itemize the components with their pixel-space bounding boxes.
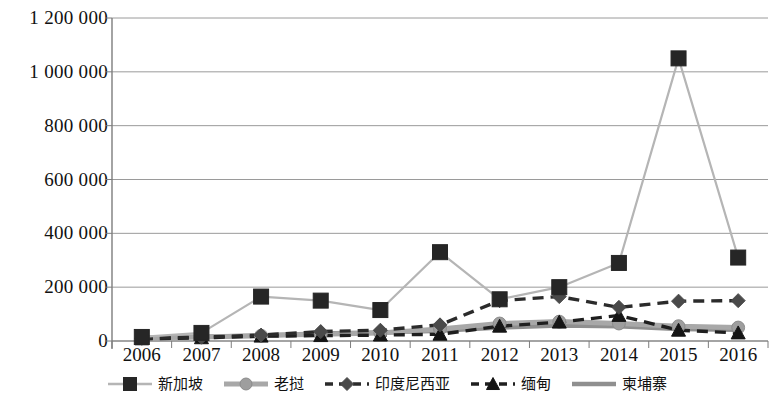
marker-square — [611, 255, 626, 270]
plot-area — [0, 0, 774, 398]
x-tick-label: 2012 — [468, 344, 532, 366]
marker-square — [671, 51, 686, 66]
x-tick-label: 2015 — [647, 344, 711, 366]
x-tick-label: 2011 — [408, 344, 472, 366]
legend-swatch-triangle-icon — [470, 376, 516, 392]
marker-square — [731, 250, 746, 265]
legend-item[interactable]: 柬埔寨 — [571, 376, 667, 392]
marker-square — [124, 378, 137, 391]
x-tick-label: 2014 — [587, 344, 651, 366]
marker-diamond — [612, 300, 626, 314]
marker-diamond — [672, 294, 686, 308]
legend-label: 新加坡 — [158, 376, 203, 392]
marker-square — [433, 245, 448, 260]
marker-diamond — [341, 378, 354, 391]
marker-square — [194, 325, 209, 340]
legend-swatch-circle-icon — [223, 376, 269, 392]
marker-square — [552, 280, 567, 295]
marker-square — [313, 293, 328, 308]
marker-diamond — [731, 294, 745, 308]
legend-item[interactable]: 老挝 — [223, 376, 304, 392]
legend-label: 印度尼西亚 — [375, 376, 450, 392]
marker-square — [492, 292, 507, 307]
marker-square — [254, 289, 269, 304]
legend-item[interactable]: 印度尼西亚 — [324, 376, 450, 392]
legend-label: 老挝 — [274, 376, 304, 392]
x-tick-label: 2008 — [229, 344, 293, 366]
x-tick-label: 2016 — [706, 344, 770, 366]
marker-circle — [240, 378, 252, 390]
marker-square — [373, 303, 388, 318]
marker-square — [134, 329, 149, 344]
legend-swatch-none-icon — [571, 376, 617, 392]
legend-item[interactable]: 新加坡 — [107, 376, 203, 392]
legend-swatch-diamond-icon — [324, 376, 370, 392]
chart-legend: 新加坡老挝印度尼西亚缅甸柬埔寨 — [0, 370, 774, 398]
series-line — [142, 58, 738, 337]
x-axis: 2006200720082009201020112012201320142015… — [0, 344, 774, 372]
x-tick-label: 2009 — [289, 344, 353, 366]
x-tick-label: 2006 — [110, 344, 174, 366]
legend-item[interactable]: 缅甸 — [470, 376, 551, 392]
x-tick-label: 2007 — [169, 344, 233, 366]
legend-label: 柬埔寨 — [622, 376, 667, 392]
x-tick-label: 2013 — [527, 344, 591, 366]
x-tick-label: 2010 — [348, 344, 412, 366]
legend-swatch-square-icon — [107, 376, 153, 392]
line-chart: 1 200 0001 000 000800 000600 000400 0002… — [0, 0, 774, 398]
legend-label: 缅甸 — [521, 376, 551, 392]
